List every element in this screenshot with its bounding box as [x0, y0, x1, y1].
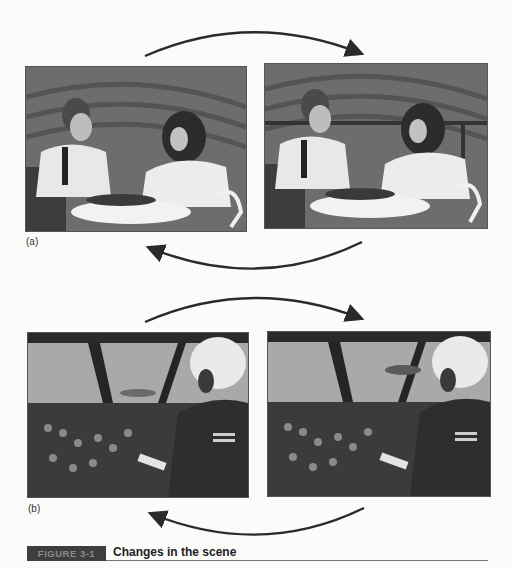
panel-label-a: (a) — [26, 236, 38, 247]
photo-b-right — [267, 331, 491, 497]
panel-label-b: (b) — [28, 503, 40, 514]
figure-number-label: FIGURE 3-1 — [27, 546, 106, 561]
figure-caption: Changes in the scene — [113, 545, 236, 559]
caption-rule — [106, 560, 488, 561]
arrow-b-bottom — [152, 508, 364, 535]
arrow-a-top — [145, 32, 360, 56]
photo-a-left — [25, 66, 247, 232]
arrow-a-bottom — [150, 242, 362, 269]
photo-b-left — [27, 332, 249, 498]
photo-a-right — [264, 63, 488, 229]
arrow-b-top — [145, 298, 360, 322]
